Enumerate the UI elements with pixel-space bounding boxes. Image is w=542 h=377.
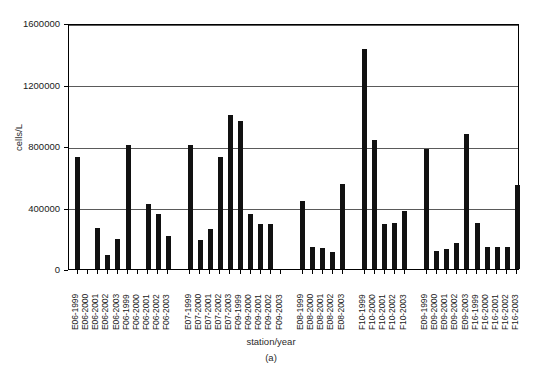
x-tick-mark bbox=[322, 270, 323, 274]
x-tick-mark bbox=[87, 270, 88, 274]
y-tick-label: 1200000 bbox=[23, 81, 60, 91]
x-tick-mark bbox=[506, 270, 507, 274]
y-tick-label: 400000 bbox=[28, 204, 60, 214]
x-tick-label: F16-2000 bbox=[481, 294, 490, 330]
x-axis-title: station/year bbox=[0, 336, 542, 347]
x-tick-mark bbox=[107, 270, 108, 274]
x-tick-label: E08-2000 bbox=[306, 294, 315, 330]
x-tick-label: F16-2001 bbox=[491, 294, 500, 330]
x-tick-mark bbox=[250, 270, 251, 274]
bar bbox=[330, 252, 335, 269]
x-tick-label: E09-1999 bbox=[420, 294, 429, 330]
bar bbox=[444, 249, 449, 269]
x-tick-label: E09-2000 bbox=[430, 294, 439, 330]
x-tick-mark bbox=[466, 270, 467, 274]
x-tick-label: F16-1999 bbox=[471, 294, 480, 330]
x-tick-label: E06-2000 bbox=[81, 294, 90, 330]
x-tick-label: F06-1999 bbox=[122, 294, 131, 330]
x-tick-mark bbox=[394, 270, 395, 274]
x-tick-label: E07-2001 bbox=[204, 294, 213, 330]
x-tick-mark bbox=[189, 270, 190, 274]
bar bbox=[95, 228, 100, 269]
x-tick-mark bbox=[446, 270, 447, 274]
x-tick-mark bbox=[332, 270, 333, 274]
bar bbox=[434, 251, 439, 269]
bar bbox=[392, 223, 397, 269]
plot-area bbox=[68, 24, 519, 270]
bar bbox=[218, 157, 223, 269]
x-tick-label: E09-2003 bbox=[461, 294, 470, 330]
y-tick-label: 1600000 bbox=[23, 19, 60, 29]
x-tick-label: E07-2002 bbox=[214, 294, 223, 330]
x-tick-label: F06-2003 bbox=[162, 294, 171, 330]
bar bbox=[208, 229, 213, 269]
x-tick-mark bbox=[476, 270, 477, 274]
x-tick-label: F10-2000 bbox=[368, 294, 377, 330]
bar bbox=[424, 149, 429, 269]
x-tick-mark bbox=[516, 270, 517, 274]
bar bbox=[156, 214, 161, 269]
x-tick-mark bbox=[496, 270, 497, 274]
x-tick-label: F16-2002 bbox=[501, 294, 510, 330]
bars-layer bbox=[69, 25, 518, 269]
x-tick-mark bbox=[270, 270, 271, 274]
bar bbox=[75, 157, 80, 269]
x-tick-mark bbox=[209, 270, 210, 274]
x-tick-mark bbox=[302, 270, 303, 274]
y-axis: 040000080000012000001600000 bbox=[0, 0, 68, 300]
bar bbox=[340, 184, 345, 269]
bar bbox=[268, 224, 273, 269]
bar bbox=[300, 201, 305, 269]
x-tick-mark bbox=[219, 270, 220, 274]
x-tick-label: F09-2003 bbox=[275, 294, 284, 330]
x-tick-mark bbox=[436, 270, 437, 274]
bar bbox=[238, 121, 243, 269]
y-tick-label: 0 bbox=[55, 265, 60, 275]
x-tick-mark bbox=[374, 270, 375, 274]
x-tick-mark bbox=[456, 270, 457, 274]
x-tick-label: F06-2000 bbox=[132, 294, 141, 330]
x-tick-label: E08-2003 bbox=[337, 294, 346, 330]
x-tick-label: E09-2002 bbox=[450, 294, 459, 330]
bar bbox=[485, 247, 490, 269]
bar bbox=[258, 224, 263, 269]
bar bbox=[464, 134, 469, 269]
bar bbox=[402, 211, 407, 269]
x-tick-label: F10-2001 bbox=[378, 294, 387, 330]
x-tick-label: E07-1999 bbox=[184, 294, 193, 330]
x-tick-label: F10-2002 bbox=[388, 294, 397, 330]
x-tick-mark bbox=[97, 270, 98, 274]
bar bbox=[310, 247, 315, 269]
x-tick-label: F10-1999 bbox=[358, 294, 367, 330]
x-tick-label: F10-2003 bbox=[399, 294, 408, 330]
x-tick-mark bbox=[280, 270, 281, 274]
x-tick-label: E08-2002 bbox=[326, 294, 335, 330]
panel-label: (a) bbox=[0, 352, 542, 363]
x-tick-label: F09-1999 bbox=[234, 294, 243, 330]
x-tick-mark bbox=[426, 270, 427, 274]
x-tick-mark bbox=[77, 270, 78, 274]
x-tick-mark bbox=[260, 270, 261, 274]
x-tick-label: E06-2003 bbox=[112, 294, 121, 330]
bar bbox=[146, 204, 151, 269]
bar bbox=[188, 145, 193, 269]
x-tick-label: E07-2000 bbox=[194, 294, 203, 330]
bar bbox=[105, 255, 110, 269]
x-tick-label: F06-2001 bbox=[142, 294, 151, 330]
x-tick-label: E08-2001 bbox=[316, 294, 325, 330]
x-tick-mark bbox=[364, 270, 365, 274]
x-tick-mark bbox=[240, 270, 241, 274]
x-tick-label: E06-1999 bbox=[71, 294, 80, 330]
x-tick-label: F09-2001 bbox=[254, 294, 263, 330]
x-tick-mark bbox=[199, 270, 200, 274]
bar bbox=[248, 214, 253, 269]
bar bbox=[475, 223, 480, 269]
bar bbox=[382, 224, 387, 269]
y-tick-label: 800000 bbox=[28, 142, 60, 152]
x-tick-mark bbox=[157, 270, 158, 274]
x-tick-mark bbox=[312, 270, 313, 274]
bar bbox=[372, 140, 377, 269]
bar bbox=[505, 247, 510, 269]
x-tick-label: F09-2000 bbox=[244, 294, 253, 330]
x-axis-labels: E06-1999E06-2000E06-2001E06-2002E06-2003… bbox=[68, 275, 519, 330]
